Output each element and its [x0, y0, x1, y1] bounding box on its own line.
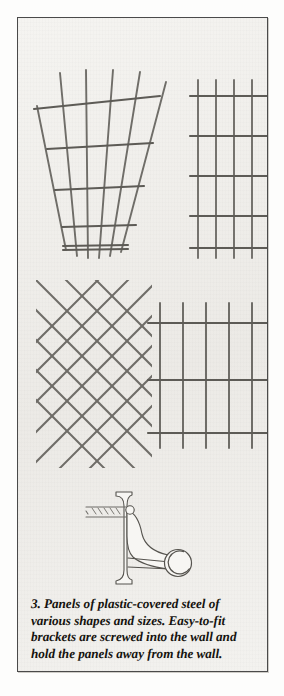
caption-line-1: 3. Panels of plastic-covered steel of — [31, 596, 259, 613]
bracket-fixing-screw — [86, 507, 126, 517]
fan-panel-vertical-bars — [37, 70, 166, 258]
bracket-brace-bar-lower — [128, 567, 170, 569]
lattice-bars-descending — [26, 210, 168, 532]
figure-page: 3. Panels of plastic-covered steel of va… — [0, 0, 284, 696]
bracket-brace-bar-upper — [128, 558, 170, 562]
illustration-plate: 3. Panels of plastic-covered steel of va… — [17, 17, 268, 672]
lattice-bars-ascending — [26, 210, 168, 532]
wall-bracket — [18, 18, 268, 672]
caption-line-3: brackets are screwed into the wall and — [31, 629, 259, 646]
fan-panel-horizontal-bars — [34, 96, 160, 250]
narrow-grid-horizontal-bars — [190, 96, 268, 248]
bracket-wall-plate — [116, 492, 132, 584]
narrow-grid-vertical-bars — [198, 80, 268, 258]
wide-grid-panel — [18, 18, 268, 672]
screw-thread-marks — [92, 508, 120, 514]
wide-grid-vertical-bars — [160, 303, 268, 448]
wide-grid-horizontal-bars — [148, 323, 268, 433]
diamond-lattice-panel — [18, 18, 268, 672]
paper-grain-texture — [18, 18, 267, 671]
caption-line-2: various shapes and sizes. Easy-to-fit — [31, 613, 259, 630]
bracket-c-clip-hook — [165, 549, 192, 577]
bracket-screw-boss — [126, 506, 134, 514]
figure-caption: 3. Panels of plastic-covered steel of va… — [31, 596, 259, 662]
caption-line-4: hold the panels away from the wall. — [31, 646, 259, 663]
bracket-curved-arm — [127, 510, 168, 569]
fan-panel — [18, 18, 268, 672]
narrow-grid-panel — [18, 18, 268, 672]
